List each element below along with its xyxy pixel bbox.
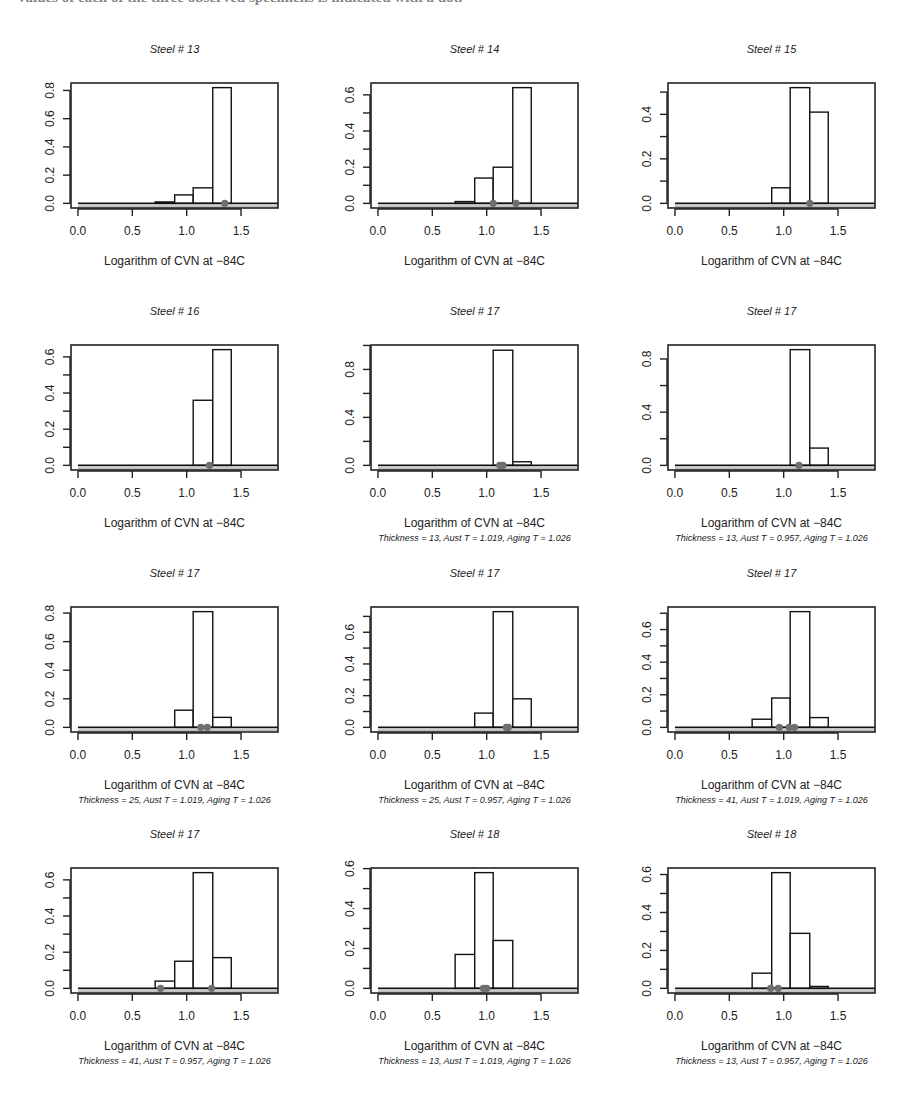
histogram-bar bbox=[193, 188, 213, 204]
plot-frame bbox=[371, 345, 578, 470]
histogram-bar bbox=[790, 88, 810, 204]
x-tick-label: 0.0 bbox=[70, 748, 87, 762]
panel-title: Steel # 18 bbox=[450, 828, 500, 840]
histogram-grid-figure: Steel # 130.00.51.01.50.00.20.40.60.8Log… bbox=[0, 0, 922, 1117]
x-tick-label: 0.0 bbox=[667, 486, 684, 500]
histogram-bar bbox=[513, 699, 531, 728]
x-tick-label: 0.5 bbox=[424, 224, 441, 238]
observed-point-dot bbox=[157, 985, 164, 992]
histogram-panel: Steel # 160.00.51.01.50.00.20.40.6Logari… bbox=[43, 305, 278, 530]
x-tick-label: 0.0 bbox=[370, 748, 387, 762]
y-tick-label: 0.2 bbox=[640, 686, 654, 703]
histogram-bar bbox=[752, 719, 772, 727]
x-tick-label: 0.5 bbox=[721, 748, 738, 762]
y-tick-label: 0.8 bbox=[640, 350, 654, 367]
y-tick-label: 0.6 bbox=[43, 871, 57, 888]
y-tick-label: 0.0 bbox=[343, 195, 357, 212]
x-tick-label: 1.5 bbox=[233, 224, 250, 238]
observed-point-dot bbox=[208, 985, 215, 992]
x-axis-label: Logarithm of CVN at −84C bbox=[104, 778, 245, 792]
y-tick-label: 0.6 bbox=[343, 624, 357, 641]
x-tick-label: 1.0 bbox=[775, 486, 792, 500]
x-tick-label: 1.0 bbox=[478, 1009, 495, 1023]
y-tick-label: 0.2 bbox=[43, 421, 57, 438]
histogram-bar bbox=[772, 873, 790, 989]
x-tick-label: 0.0 bbox=[70, 486, 87, 500]
observed-point-dot bbox=[483, 985, 490, 992]
histogram-panel: Steel # 170.00.51.01.50.00.40.8Logarithm… bbox=[343, 305, 578, 543]
plot-frame bbox=[71, 83, 278, 208]
histogram-bar bbox=[772, 188, 790, 204]
x-tick-label: 1.0 bbox=[178, 748, 195, 762]
x-tick-label: 0.0 bbox=[667, 748, 684, 762]
x-tick-label: 1.5 bbox=[830, 224, 847, 238]
histogram-bar bbox=[475, 873, 493, 989]
histogram-bar bbox=[475, 713, 493, 727]
histogram-panel: Steel # 170.00.51.01.50.00.20.40.60.8Log… bbox=[43, 567, 278, 805]
histogram-panel: Steel # 140.00.51.01.50.00.20.40.6Logari… bbox=[343, 43, 578, 268]
panel-subtitle: Thickness = 25, Aust T = 0.957, Aging T … bbox=[378, 795, 571, 805]
x-tick-label: 0.5 bbox=[424, 1009, 441, 1023]
x-axis-label: Logarithm of CVN at −84C bbox=[701, 254, 842, 268]
x-axis-label: Logarithm of CVN at −84C bbox=[104, 254, 245, 268]
histogram-bar bbox=[810, 448, 828, 465]
x-axis-label: Logarithm of CVN at −84C bbox=[404, 1039, 545, 1053]
y-tick-label: 0.0 bbox=[43, 195, 57, 212]
x-tick-label: 1.0 bbox=[178, 224, 195, 238]
y-tick-label: 0.0 bbox=[43, 457, 57, 474]
x-tick-label: 0.5 bbox=[124, 748, 141, 762]
x-tick-label: 1.5 bbox=[233, 486, 250, 500]
panel-subtitle: Thickness = 41, Aust T = 0.957, Aging T … bbox=[78, 1056, 271, 1066]
histogram-panel: Steel # 170.00.51.01.50.00.40.8Logarithm… bbox=[640, 305, 875, 543]
y-tick-label: 0.4 bbox=[43, 662, 57, 679]
y-tick-label: 0.2 bbox=[43, 166, 57, 183]
panel-title: Steel # 16 bbox=[150, 305, 200, 317]
panel-title: Steel # 14 bbox=[450, 43, 500, 55]
x-tick-label: 0.5 bbox=[424, 748, 441, 762]
panel-title: Steel # 17 bbox=[150, 828, 200, 840]
x-axis-label: Logarithm of CVN at −84C bbox=[404, 778, 545, 792]
x-tick-label: 0.5 bbox=[124, 1009, 141, 1023]
x-tick-label: 1.0 bbox=[178, 486, 195, 500]
x-axis-label: Logarithm of CVN at −84C bbox=[701, 1039, 842, 1053]
y-tick-label: 0.2 bbox=[43, 690, 57, 707]
y-tick-label: 0.4 bbox=[43, 907, 57, 924]
histogram-bar bbox=[175, 195, 193, 203]
observed-point-dot bbox=[775, 985, 782, 992]
x-tick-label: 1.0 bbox=[775, 1009, 792, 1023]
histogram-bar bbox=[493, 940, 513, 988]
y-tick-label: 0.4 bbox=[343, 900, 357, 917]
histogram-bar bbox=[810, 718, 828, 728]
x-tick-label: 0.0 bbox=[370, 224, 387, 238]
y-tick-label: 0.2 bbox=[343, 159, 357, 176]
x-tick-label: 0.0 bbox=[370, 486, 387, 500]
x-axis-label: Logarithm of CVN at −84C bbox=[404, 516, 545, 530]
x-tick-label: 1.5 bbox=[830, 748, 847, 762]
histogram-panel: Steel # 170.00.51.01.50.00.20.40.6Logari… bbox=[343, 567, 578, 805]
x-tick-label: 0.5 bbox=[721, 486, 738, 500]
plot-frame bbox=[668, 345, 875, 470]
observed-point-dot bbox=[776, 724, 783, 731]
y-tick-label: 0.4 bbox=[640, 106, 654, 123]
plot-frame bbox=[71, 345, 278, 470]
y-tick-label: 0.0 bbox=[43, 719, 57, 736]
histogram-bar bbox=[213, 350, 231, 466]
histogram-bar bbox=[193, 612, 213, 728]
y-tick-label: 0.0 bbox=[343, 719, 357, 736]
y-tick-label: 0.6 bbox=[640, 866, 654, 883]
x-tick-label: 1.5 bbox=[830, 486, 847, 500]
panel-title: Steel # 17 bbox=[450, 305, 500, 317]
histogram-bar bbox=[493, 350, 513, 465]
y-tick-label: 0.6 bbox=[343, 86, 357, 103]
panel-title: Steel # 15 bbox=[747, 43, 797, 55]
x-axis-label: Logarithm of CVN at −84C bbox=[701, 516, 842, 530]
x-tick-label: 0.5 bbox=[721, 1009, 738, 1023]
histogram-bar bbox=[213, 717, 231, 727]
panel-title: Steel # 17 bbox=[450, 567, 500, 579]
x-tick-label: 0.0 bbox=[667, 1009, 684, 1023]
x-tick-label: 1.5 bbox=[233, 748, 250, 762]
x-tick-label: 1.0 bbox=[775, 224, 792, 238]
y-tick-label: 0.8 bbox=[343, 361, 357, 378]
panel-title: Steel # 13 bbox=[150, 43, 200, 55]
y-tick-label: 0.6 bbox=[343, 860, 357, 877]
